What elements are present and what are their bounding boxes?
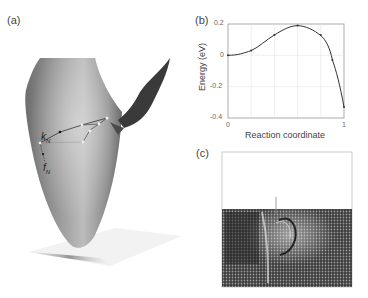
x-tick-0: 0 <box>226 121 230 128</box>
x-tick-1: 1 <box>342 121 346 128</box>
f-subscript: N <box>46 169 50 175</box>
x-axis-title: Reaction coordinate <box>245 130 325 140</box>
force-label: fN <box>43 162 50 175</box>
energy-curve <box>228 26 344 107</box>
y-tick-neg0.4: -0.4 <box>210 113 222 120</box>
y-tick-neg0.2: -0.2 <box>210 82 222 89</box>
spring-constant-label: kN <box>41 131 50 144</box>
k-subscript: N <box>46 138 50 144</box>
energy-surface-3d <box>0 0 200 298</box>
y-tick-0: 0 <box>220 51 224 58</box>
y-tick-0.2: 0.2 <box>214 19 224 26</box>
y-axis-title: Energy (eV) <box>197 37 207 97</box>
